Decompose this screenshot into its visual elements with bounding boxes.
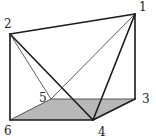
label-vertex-4: 4 (98, 125, 106, 139)
label-vertex-2: 2 (4, 17, 12, 31)
shaded-base (10, 99, 135, 120)
edge-1-5 (51, 14, 135, 99)
label-vertex-3: 3 (142, 92, 150, 106)
label-vertex-5: 5 (39, 91, 47, 105)
edge-2-5 (10, 34, 51, 99)
prism-diagram: 1 2 3 4 5 6 (0, 0, 156, 140)
label-vertex-1: 1 (139, 0, 147, 14)
edge-2-1 (10, 14, 135, 34)
label-vertex-6: 6 (4, 124, 12, 138)
